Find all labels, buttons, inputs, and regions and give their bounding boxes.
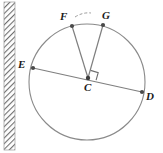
point-dot-E bbox=[31, 66, 35, 70]
arc-mark-FG bbox=[75, 13, 91, 17]
point-dot-F bbox=[70, 24, 74, 28]
segment-CF bbox=[72, 26, 88, 78]
point-label-F: F bbox=[60, 11, 67, 22]
circle-geometry-figure: F G E C D bbox=[0, 0, 163, 153]
point-dot-C bbox=[86, 76, 90, 80]
point-label-D: D bbox=[146, 91, 154, 102]
point-label-E: E bbox=[18, 59, 25, 70]
geometry-canvas bbox=[0, 0, 163, 153]
segment-CG bbox=[88, 25, 103, 78]
point-label-C: C bbox=[84, 82, 91, 93]
point-label-G: G bbox=[102, 10, 110, 21]
hatched-wall-bar bbox=[4, 2, 15, 150]
point-dot-D bbox=[140, 90, 144, 94]
point-dot-G bbox=[101, 23, 105, 27]
right-angle-mark-at-C bbox=[91, 70, 99, 80]
